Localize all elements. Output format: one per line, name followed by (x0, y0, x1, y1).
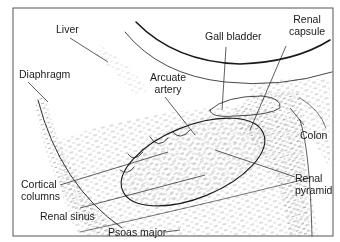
label-arcuate-line1: Arcuate (144, 71, 192, 83)
label-cortical-columns: Cortical columns (21, 178, 60, 202)
label-liver: Liver (56, 23, 79, 35)
label-renal-pyramid-line2: pyramid (295, 184, 332, 196)
label-renal-capsule-line2: capsule (282, 25, 332, 37)
label-psoas-major: Psoas major (108, 226, 166, 238)
label-renal-pyramid-line1: Renal (295, 172, 332, 184)
label-cortical-line2: columns (21, 190, 60, 202)
label-cortical-line1: Cortical (21, 178, 60, 190)
label-diaphragm: Diaphragm (19, 68, 70, 80)
kidney-diagram: Liver Gall bladder Renal capsule Diaphra… (0, 0, 340, 242)
label-renal-sinus: Renal sinus (40, 210, 95, 222)
label-renal-pyramid: Renal pyramid (295, 172, 332, 196)
label-arcuate-artery: Arcuate artery (144, 71, 192, 95)
label-colon: Colon (300, 129, 327, 141)
label-renal-capsule: Renal capsule (282, 13, 332, 37)
label-arcuate-line2: artery (144, 83, 192, 95)
label-gall-bladder: Gall bladder (205, 30, 262, 42)
label-renal-capsule-line1: Renal (282, 13, 332, 25)
